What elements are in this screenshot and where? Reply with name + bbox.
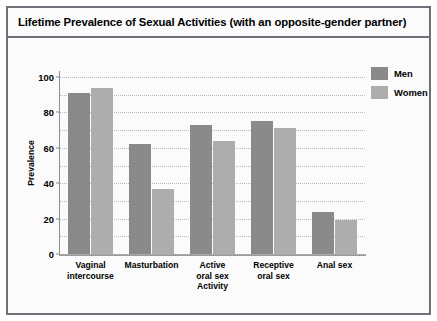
bar-group: Activeoral sex — [190, 77, 235, 254]
bar-group: Anal sex — [312, 77, 357, 254]
bar-group: Masturbation — [129, 77, 174, 254]
bar-women-3[interactable] — [213, 141, 235, 254]
plot-area: 020406080100 VaginalintercourseMasturbat… — [60, 77, 365, 254]
bar-women-2[interactable] — [152, 189, 174, 254]
bar-men-2[interactable] — [129, 144, 151, 254]
legend-swatch-icon — [371, 86, 388, 99]
bar-men-3[interactable] — [190, 125, 212, 254]
legend-swatch-icon — [371, 67, 388, 80]
y-axis-tick-mark — [56, 147, 60, 148]
y-axis-tick-label: 40 — [44, 178, 54, 189]
gridline — [60, 254, 365, 255]
bar-group: Receptiveoral sex — [251, 77, 296, 254]
bar-women-4[interactable] — [274, 128, 296, 254]
y-axis-tick-label: 0 — [49, 249, 54, 260]
bar-men-4[interactable] — [251, 121, 273, 254]
y-axis-tick-label: 100 — [38, 72, 54, 83]
y-axis-line — [59, 71, 60, 254]
y-axis-tick-mark — [56, 254, 60, 255]
legend-label: Men — [394, 68, 413, 79]
bar-women-5[interactable] — [335, 220, 357, 254]
legend-item-women[interactable]: Women — [371, 86, 428, 99]
x-axis-category-label: Anal sex — [290, 260, 380, 271]
bar-men-1[interactable] — [68, 93, 90, 254]
y-axis-tick-label: 80 — [44, 107, 54, 118]
chart-legend: MenWomen — [371, 67, 428, 105]
y-axis-tick-label: 20 — [44, 213, 54, 224]
plot-wrapper: Prevalence 020406080100 Vaginalintercour… — [8, 54, 433, 313]
y-axis-tick-label: 60 — [44, 142, 54, 153]
y-axis-title: Prevalence — [26, 118, 36, 208]
y-axis-tick-mark — [56, 112, 60, 113]
legend-item-men[interactable]: Men — [371, 67, 428, 80]
y-axis-tick-mark — [56, 77, 60, 78]
legend-label: Women — [394, 87, 428, 98]
y-axis-tick-mark — [56, 218, 60, 219]
bar-group: Vaginalintercourse — [68, 77, 113, 254]
bar-men-5[interactable] — [312, 212, 334, 254]
y-axis-tick-mark — [56, 183, 60, 184]
title-bar: Lifetime Prevalence of Sexual Activities… — [8, 8, 429, 38]
chart-figure: Lifetime Prevalence of Sexual Activities… — [6, 6, 431, 315]
x-axis-title: Activity — [60, 281, 365, 291]
page-title: Lifetime Prevalence of Sexual Activities… — [18, 15, 417, 30]
bar-women-1[interactable] — [91, 88, 113, 254]
